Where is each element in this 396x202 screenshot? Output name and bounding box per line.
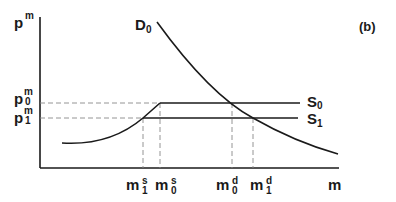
y-axis-label: p m [14, 15, 23, 30]
demand-label-d0: D 0 [135, 17, 146, 32]
price-label-p1: p m 1 [14, 110, 23, 125]
supply-label-s1: S 1 [307, 111, 317, 126]
quantity-label-m1d: m d 1 [250, 177, 263, 192]
quantity-label-m1s: m s 1 [126, 177, 139, 192]
supply-label-s0: S 0 [307, 94, 317, 109]
demand-curve-d0 [157, 22, 338, 154]
x-axis-label: m [328, 177, 341, 192]
quantity-label-m0s: m s 0 [155, 177, 168, 192]
panel-label: (b) [359, 20, 376, 33]
quantity-label-m0d: m d 0 [216, 177, 229, 192]
supply-curve-lower [62, 103, 160, 143]
price-label-p0: p m 0 [14, 91, 23, 106]
supply-demand-diagram [0, 0, 396, 202]
